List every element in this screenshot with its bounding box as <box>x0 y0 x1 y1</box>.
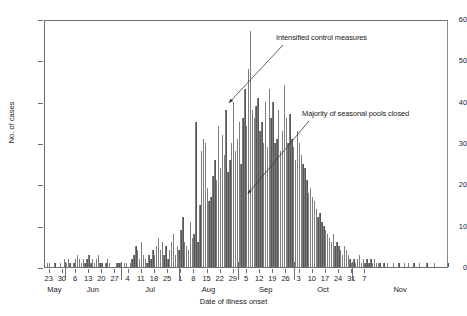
x-tick-label: 4 <box>126 274 130 283</box>
month-separator <box>294 262 295 280</box>
month-label: May <box>47 285 61 294</box>
bar <box>387 263 388 267</box>
y-axis-title: No. of cases <box>7 88 16 158</box>
x-tick-mark <box>312 269 313 273</box>
month-label: Sep <box>259 285 272 294</box>
y-tick-mark <box>38 144 43 145</box>
x-tick-label: 23 <box>45 274 53 283</box>
x-tick-label: 24 <box>334 274 342 283</box>
month-label: Jul <box>145 285 155 294</box>
x-tick-label: 18 <box>150 274 158 283</box>
bar <box>126 263 127 267</box>
x-tick-mark <box>338 269 339 273</box>
month-separator <box>179 262 180 280</box>
month-label: Oct <box>317 285 329 294</box>
y-tick-label: 50 <box>433 57 467 65</box>
x-tick-label: 17 <box>321 274 329 283</box>
x-tick-mark <box>141 269 142 273</box>
month-label: Aug <box>202 285 215 294</box>
x-tick-mark <box>101 269 102 273</box>
y-tick-mark <box>38 185 43 186</box>
y-tick-mark <box>38 227 43 228</box>
x-tick-label: 6 <box>73 274 77 283</box>
month-label: Nov <box>393 285 406 294</box>
x-tick-label: 5 <box>244 274 248 283</box>
x-tick-mark <box>299 269 300 273</box>
x-tick-mark <box>285 269 286 273</box>
x-tick-mark <box>114 269 115 273</box>
x-tick-mark <box>75 269 76 273</box>
bar <box>69 263 70 267</box>
bar <box>413 263 414 267</box>
y-tick-label: 10 <box>433 223 467 231</box>
x-tick-label: 11 <box>137 274 145 283</box>
x-tick-label: 22 <box>216 274 224 283</box>
bar <box>419 263 420 267</box>
x-tick-mark <box>154 269 155 273</box>
x-tick-mark <box>325 269 326 273</box>
x-tick-label: 10 <box>308 274 316 283</box>
x-tick-label: 3 <box>297 274 301 283</box>
bar <box>379 263 380 267</box>
x-tick-mark <box>88 269 89 273</box>
x-tick-mark <box>180 269 181 273</box>
x-tick-mark <box>49 269 50 273</box>
month-separator <box>65 262 66 280</box>
x-tick-mark <box>233 269 234 273</box>
x-tick-mark <box>193 269 194 273</box>
y-tick-mark <box>38 61 43 62</box>
bar <box>60 263 61 267</box>
bar <box>398 263 399 267</box>
x-tick-label: 19 <box>268 274 276 283</box>
x-tick-label: 26 <box>281 274 289 283</box>
x-tick-label: 15 <box>202 274 210 283</box>
x-tick-mark <box>272 269 273 273</box>
x-tick-label: 7 <box>362 274 366 283</box>
x-tick-label: 12 <box>255 274 263 283</box>
bar <box>408 263 409 267</box>
x-tick-label: 27 <box>110 274 118 283</box>
bar <box>101 263 102 267</box>
y-tick-label: 0 <box>433 264 467 272</box>
x-tick-label: 29 <box>229 274 237 283</box>
bar <box>49 263 50 267</box>
y-tick-label: 40 <box>433 99 467 107</box>
bar <box>426 263 427 267</box>
x-tick-mark <box>259 269 260 273</box>
x-tick-mark <box>220 269 221 273</box>
annotation-intensified-control-measures: Intensified control measures <box>276 33 367 42</box>
month-label: Jun <box>87 285 99 294</box>
x-tick-mark <box>62 269 63 273</box>
x-axis-title: Date of illness onset <box>0 297 467 306</box>
annotation-pools-closed: Majority of seasonal pools closed <box>302 109 409 118</box>
x-tick-mark <box>167 269 168 273</box>
x-tick-mark <box>364 269 365 273</box>
epidemic-curve-figure: 0102030405060 No. of cases 2330613202741… <box>0 0 467 316</box>
x-tick-mark <box>246 269 247 273</box>
bar <box>109 263 110 267</box>
y-tick-mark <box>38 20 43 21</box>
y-tick-mark <box>38 103 43 104</box>
x-tick-label: 13 <box>84 274 92 283</box>
x-tick-mark <box>207 269 208 273</box>
plot-area <box>44 20 448 268</box>
month-separator <box>238 262 239 280</box>
x-tick-label: 8 <box>191 274 195 283</box>
bar <box>404 263 405 267</box>
bar <box>393 263 394 267</box>
y-tick-label: 30 <box>433 140 467 148</box>
bar <box>54 263 55 267</box>
x-tick-label: 20 <box>97 274 105 283</box>
y-tick-label: 20 <box>433 181 467 189</box>
month-separator <box>352 262 353 280</box>
bar <box>383 263 384 267</box>
bar-series <box>45 21 447 267</box>
y-tick-mark <box>38 268 43 269</box>
y-tick-label: 60 <box>433 16 467 24</box>
x-tick-label: 25 <box>163 274 171 283</box>
x-tick-mark <box>128 269 129 273</box>
month-separator <box>121 262 122 280</box>
